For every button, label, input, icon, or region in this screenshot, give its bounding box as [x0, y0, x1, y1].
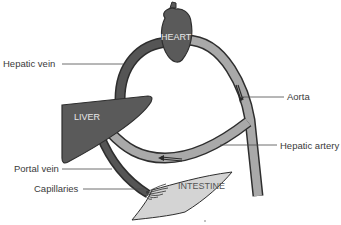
portal-vein-label: Portal vein: [14, 163, 59, 174]
intestine-label: INTESTINE: [178, 181, 225, 191]
aorta-vessel: [186, 40, 258, 196]
intestine-shape: [132, 172, 232, 220]
heart-label: HEART: [161, 32, 192, 42]
speck-mark: [204, 220, 205, 221]
capillaries-label: Capillaries: [34, 183, 79, 194]
hepatic-vein-label: Hepatic vein: [3, 58, 55, 69]
hepatic-artery-vessel: [110, 122, 248, 158]
hepatic-circulation-diagram: HEART LIVER INTESTINE Hepatic vein Aorta…: [0, 0, 341, 225]
aorta-label: Aorta: [287, 91, 310, 102]
hepatic-artery-label: Hepatic artery: [280, 140, 339, 151]
hepatic-vein-vessel: [120, 42, 168, 100]
liver-label: LIVER: [74, 112, 101, 122]
